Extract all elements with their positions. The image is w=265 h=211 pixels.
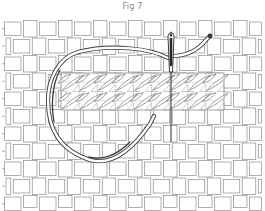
stitch-band	[58, 73, 228, 110]
stitch-diagram	[0, 0, 265, 211]
